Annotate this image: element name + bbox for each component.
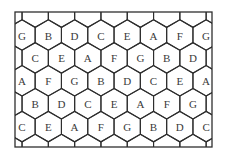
hex-cell-label: E [45, 121, 52, 133]
hex-cell-label: C [97, 30, 104, 42]
hex-cell-label: A [71, 121, 79, 133]
hex-cell [0, 134, 22, 161]
hex-cell-label: B [32, 98, 39, 110]
hex-cell-label: A [84, 52, 92, 64]
hex-cell [22, 0, 48, 27]
hex-cell [127, 134, 153, 161]
hex-cell [154, 134, 180, 161]
hex-cell-label: F [45, 75, 51, 87]
hex-cell-label: C [202, 121, 209, 133]
hex-cell-label: B [150, 121, 157, 133]
hex-cell-label: D [71, 30, 79, 42]
hex-cell [101, 134, 127, 161]
hex-cell-label: A [202, 75, 210, 87]
hex-cell-label: A [136, 98, 144, 110]
hex-cell-label: E [58, 52, 65, 64]
hex-cell [101, 0, 127, 27]
hex-cell [22, 134, 48, 161]
hex-cell [0, 66, 9, 96]
hex-cell [0, 0, 22, 27]
hex-cell [206, 0, 226, 27]
hex-cell-label: E [124, 30, 131, 42]
hex-cell-label: C [150, 75, 157, 87]
hex-cell-label: D [176, 121, 184, 133]
hex-cell-label: A [18, 75, 26, 87]
hex-grid-diagram: GBDCEAFGCEAFGBDAFGBDCEABDCEAFGCEAFGBDC [0, 0, 226, 161]
hex-cell [206, 89, 226, 119]
hex-cell-label: F [164, 98, 170, 110]
hex-cell [154, 0, 180, 27]
hex-cell [0, 20, 9, 50]
hex-cell-label: F [98, 121, 104, 133]
hex-cell-label: G [136, 52, 144, 64]
hex-cell-label: D [58, 98, 66, 110]
hex-cell-label: A [150, 30, 158, 42]
hex-cell [180, 0, 206, 27]
hex-cell-label: B [45, 30, 52, 42]
hex-cell-label: C [84, 98, 91, 110]
hex-cell-label: B [97, 75, 104, 87]
hex-cell-label: D [189, 52, 197, 64]
hex-cell-label: G [202, 30, 210, 42]
hex-cell [0, 89, 22, 119]
hex-cell [219, 111, 226, 141]
hex-cell-label: G [18, 30, 26, 42]
hex-cell-label: F [177, 30, 183, 42]
hex-cell [75, 134, 101, 161]
hex-cell [219, 20, 226, 50]
hex-cell [206, 43, 226, 73]
hex-cell-label: G [123, 121, 131, 133]
hex-cell [48, 0, 74, 27]
hex-cell [206, 134, 226, 161]
hex-cell-label: E [176, 75, 183, 87]
hex-cell-label: E [111, 98, 118, 110]
hex-cell [0, 111, 9, 141]
hex-cell-label: G [189, 98, 197, 110]
hex-cell [180, 134, 206, 161]
hex-cell [48, 134, 74, 161]
hex-cell [127, 0, 153, 27]
hex-cell [75, 0, 101, 27]
hex-cell-label: C [32, 52, 39, 64]
hex-cell-label: C [18, 121, 25, 133]
hex-cell-label: B [163, 52, 170, 64]
hex-cell-label: G [71, 75, 79, 87]
hex-cell-label: D [123, 75, 131, 87]
hex-cells: GBDCEAFGCEAFGBDAFGBDCEABDCEAFGCEAFGBDC [0, 0, 226, 161]
hex-cell-label: F [111, 52, 117, 64]
hex-cell [219, 66, 226, 96]
hex-cell [0, 43, 22, 73]
